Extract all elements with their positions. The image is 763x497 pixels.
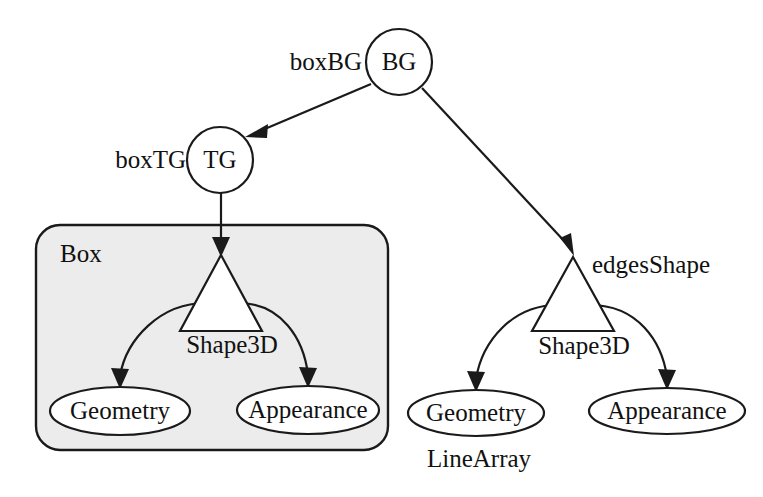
- edge-bg-to-tg: [260, 84, 371, 131]
- node-box-appearance-label: Appearance: [248, 396, 367, 423]
- node-box-shape3d-label: Shape3D: [186, 331, 278, 358]
- node-edges-geometry-label: Geometry: [426, 399, 526, 426]
- node-bg-side-label: boxBG: [290, 48, 362, 75]
- arrowhead-edges-shape-to-geometry: [467, 371, 485, 392]
- node-tg-label: TG: [203, 146, 236, 173]
- edge-bg-to-edges-shape: [422, 88, 566, 243]
- arrowhead-bg-to-tg: [245, 124, 268, 138]
- node-edges-shape3d-side-label: edgesShape: [592, 251, 710, 278]
- group-label-box: Box: [60, 240, 102, 267]
- arrowhead-edges-shape-to-appearance: [658, 369, 676, 390]
- scene-graph-diagram: Box BG boxBG TG boxTG Shape3D: [0, 0, 763, 497]
- node-edges-geometry-sub-label: LineArray: [427, 445, 532, 472]
- node-tg-side-label: boxTG: [115, 146, 186, 173]
- scene-graph-canvas: Box BG boxBG TG boxTG Shape3D: [0, 0, 763, 497]
- node-edges-shape3d-label: Shape3D: [538, 332, 630, 359]
- node-bg-label: BG: [382, 48, 417, 75]
- node-edges-appearance-label: Appearance: [607, 397, 726, 424]
- node-box-geometry-label: Geometry: [70, 397, 170, 424]
- arrowhead-bg-to-edges-shape: [560, 233, 574, 256]
